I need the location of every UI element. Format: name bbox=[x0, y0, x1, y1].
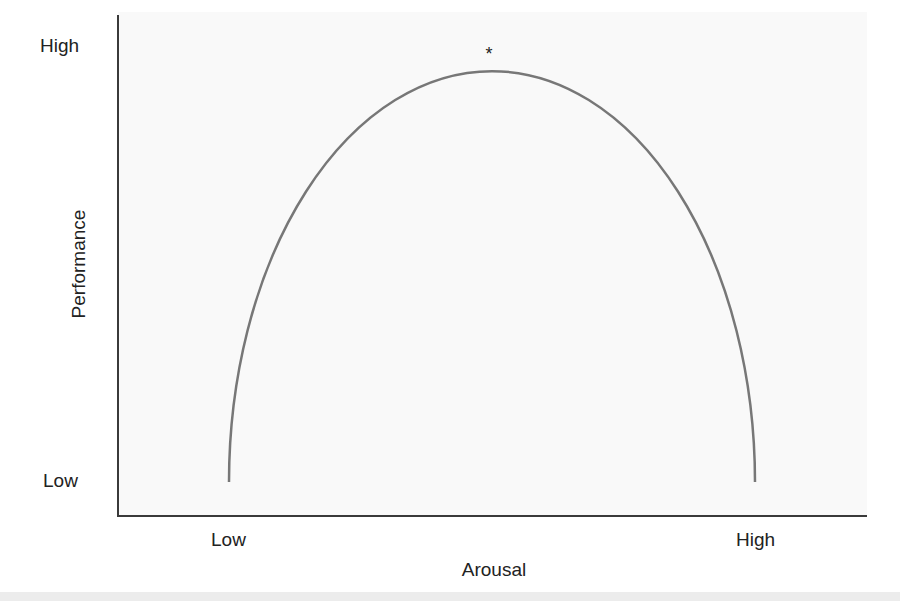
y-axis bbox=[117, 15, 119, 516]
y-axis-title: Performance bbox=[68, 210, 90, 319]
y-tick-low: Low bbox=[43, 470, 78, 492]
inverted-u-curve bbox=[0, 0, 900, 612]
peak-marker: * bbox=[485, 44, 492, 65]
curve-path bbox=[229, 71, 755, 482]
x-axis-title: Arousal bbox=[462, 559, 526, 581]
x-axis bbox=[117, 515, 867, 517]
y-tick-high: High bbox=[40, 35, 79, 57]
x-tick-high: High bbox=[736, 529, 775, 551]
x-tick-low: Low bbox=[211, 529, 246, 551]
